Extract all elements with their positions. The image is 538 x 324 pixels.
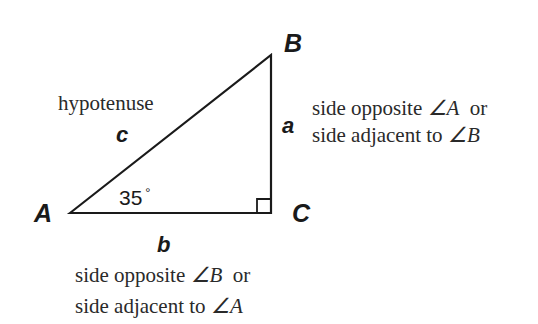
side-a-description-line1: side opposite ∠A or [312, 96, 487, 120]
angle-ref: ∠B [448, 123, 480, 147]
triangle-figure: A B C 35° hypotenuse c a side opposite ∠… [0, 0, 538, 324]
desc-text: side opposite [312, 96, 428, 120]
angle-ref: ∠A [211, 294, 243, 318]
side-label-b: b [157, 232, 170, 257]
angle-a-number: 35 [119, 186, 142, 209]
desc-text: side opposite [75, 263, 191, 287]
side-b-description-line2: side adjacent to ∠A [75, 294, 243, 318]
vertex-label-a: A [33, 199, 52, 227]
desc-text: or [222, 263, 250, 287]
side-a-description-line2: side adjacent to ∠B [312, 123, 480, 147]
side-label-c: c [116, 122, 128, 147]
side-label-a: a [282, 113, 294, 138]
angle-a-value: 35° [119, 185, 151, 209]
triangle-shape [70, 55, 271, 213]
right-angle-marker [257, 199, 271, 213]
desc-text: or [459, 96, 487, 120]
angle-ref: ∠B [191, 263, 223, 287]
right-triangle-diagram: A B C 35° hypotenuse c a side opposite ∠… [0, 0, 538, 324]
desc-text: side adjacent to [312, 123, 448, 147]
angle-ref: ∠A [428, 96, 460, 120]
vertex-label-c: C [292, 199, 311, 227]
desc-text: side adjacent to [75, 294, 211, 318]
degree-symbol: ° [145, 185, 150, 200]
vertex-label-b: B [284, 29, 302, 57]
side-b-description-line1: side opposite ∠B or [75, 263, 250, 287]
hypotenuse-label: hypotenuse [58, 91, 154, 115]
